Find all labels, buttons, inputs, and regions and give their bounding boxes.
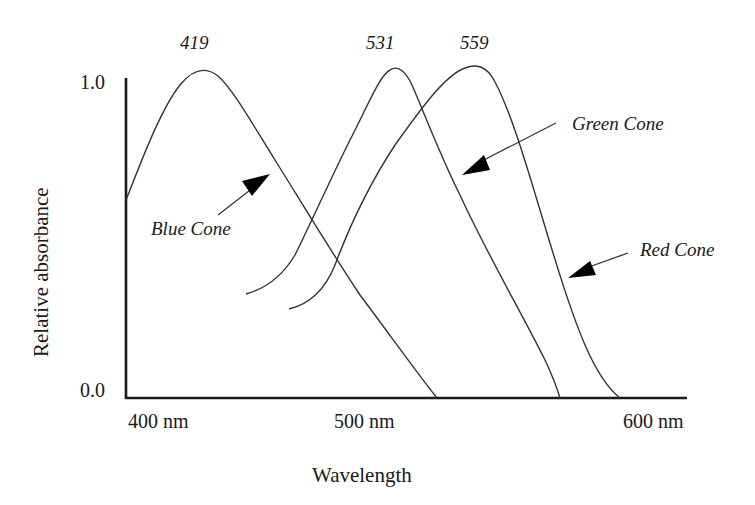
red-cone-curve bbox=[289, 66, 620, 398]
green-arrow-shaft bbox=[478, 123, 556, 163]
blue-cone-annotation: Blue Cone bbox=[151, 174, 270, 239]
x-tick-600: 600 nm bbox=[623, 410, 684, 432]
blue-cone-label: Blue Cone bbox=[151, 218, 231, 239]
green-cone-curve bbox=[246, 68, 560, 398]
green-arrow-head-icon bbox=[462, 155, 490, 175]
peak-label-blue: 419 bbox=[180, 32, 209, 53]
red-arrow-head-icon bbox=[568, 261, 596, 278]
red-cone-annotation: Red Cone bbox=[568, 239, 714, 278]
x-tick-400: 400 nm bbox=[128, 410, 189, 432]
red-cone-label: Red Cone bbox=[639, 239, 714, 260]
peak-label-green: 531 bbox=[366, 32, 395, 53]
peak-label-red: 559 bbox=[460, 32, 489, 53]
green-cone-label: Green Cone bbox=[572, 113, 664, 134]
green-cone-annotation: Green Cone bbox=[462, 113, 664, 175]
y-tick-1: 1.0 bbox=[80, 71, 105, 93]
x-axis-title: Wavelength bbox=[312, 463, 412, 487]
y-axis-title: Relative absorbance bbox=[29, 187, 53, 357]
x-tick-500: 500 nm bbox=[334, 410, 395, 432]
cone-absorbance-chart: 1.0 0.0 400 nm 500 nm 600 nm Wavelength … bbox=[0, 0, 755, 505]
red-arrow-shaft bbox=[586, 253, 628, 268]
y-tick-0: 0.0 bbox=[80, 379, 105, 401]
